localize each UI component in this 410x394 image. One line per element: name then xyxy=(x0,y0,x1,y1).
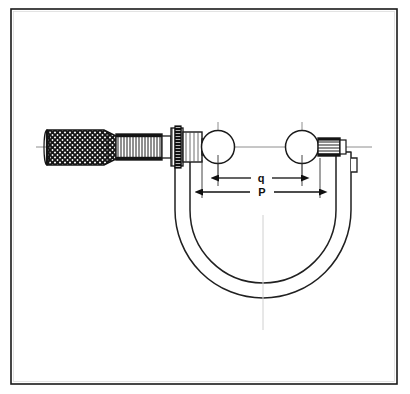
graduated-spindle xyxy=(116,134,171,160)
lock-nut xyxy=(171,126,183,168)
figure-page: q P xyxy=(0,0,410,394)
micrometer-drawing: q P xyxy=(0,0,410,394)
knurled-thimble xyxy=(44,130,116,165)
dimension-P-label: P xyxy=(258,186,265,198)
c-frame-notch xyxy=(351,158,357,172)
anvil-block xyxy=(318,138,346,156)
dimension-q-label: q xyxy=(258,172,265,184)
lock-nut-knurl-band xyxy=(175,126,181,168)
